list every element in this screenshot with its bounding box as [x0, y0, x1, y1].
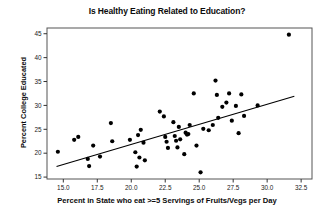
svg-text:30: 30 [34, 102, 42, 109]
plot-area: 15.017.520.022.525.027.530.032.5 1520253… [0, 0, 334, 214]
svg-text:20: 20 [34, 149, 42, 156]
plot-frame [47, 28, 312, 179]
svg-text:22.5: 22.5 [159, 184, 172, 191]
svg-text:45: 45 [34, 30, 42, 37]
svg-text:17.5: 17.5 [91, 184, 104, 191]
x-axis-ticks: 15.017.520.022.525.027.530.032.5 [57, 179, 308, 191]
svg-text:15.0: 15.0 [57, 184, 70, 191]
svg-text:27.5: 27.5 [227, 184, 240, 191]
y-axis-ticks: 15202530354045 [34, 30, 47, 180]
svg-text:35: 35 [34, 78, 42, 85]
svg-text:30.0: 30.0 [261, 184, 274, 191]
svg-text:40: 40 [34, 54, 42, 61]
scatter-chart-figure: Is Healthy Eating Related to Education? … [0, 0, 334, 214]
svg-text:25.0: 25.0 [193, 184, 206, 191]
svg-text:32.5: 32.5 [295, 184, 308, 191]
svg-text:20.0: 20.0 [125, 184, 138, 191]
data-points [56, 33, 291, 175]
svg-text:15: 15 [34, 173, 42, 180]
svg-text:25: 25 [34, 126, 42, 133]
